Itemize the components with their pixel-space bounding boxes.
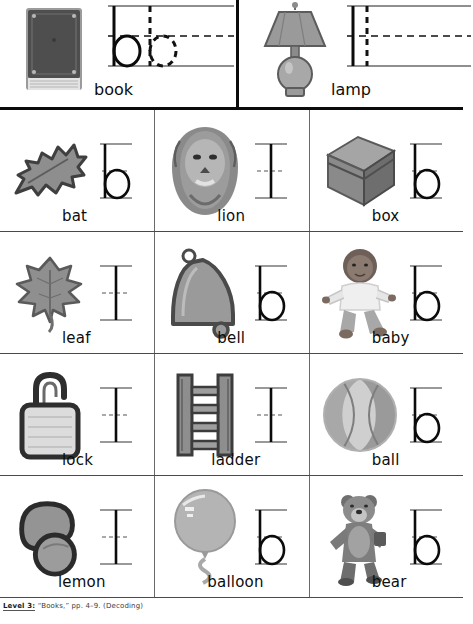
exercise-cell-box: box <box>309 110 463 231</box>
exercise-cell-leaf: leaf <box>0 232 154 353</box>
exercise-grid: bat <box>0 110 463 598</box>
word-label: bear <box>372 573 407 591</box>
exercise-cell-bell: bell <box>154 232 308 353</box>
ladder-picture <box>163 367 247 463</box>
example-cell-book: book <box>0 0 236 107</box>
word-label: ladder <box>211 451 260 469</box>
practice-lines-lock[interactable] <box>96 380 136 450</box>
practice-lines-bell[interactable] <box>251 258 291 328</box>
word-label: bell <box>217 329 245 347</box>
bear-picture <box>318 489 402 585</box>
word-label: balloon <box>207 573 263 591</box>
practice-lines-lion[interactable] <box>251 136 291 206</box>
bell-picture <box>163 245 247 341</box>
practice-lines-lamp[interactable] <box>345 0 473 78</box>
exercise-cell-ball: ball <box>309 354 463 475</box>
grid-row: lemon <box>0 476 463 598</box>
practice-lines-leaf[interactable] <box>96 258 136 328</box>
grid-row: lock <box>0 354 463 476</box>
practice-lines-balloon[interactable] <box>251 502 291 572</box>
word-label: bat <box>62 207 87 225</box>
practice-lines-ball[interactable] <box>406 380 446 450</box>
book-picture <box>10 0 102 100</box>
baby-picture <box>318 245 402 341</box>
footer-caption: Level 3: “Books,” pp. 4–9. (Decoding) <box>3 602 463 610</box>
ball-picture <box>318 367 402 463</box>
leaf-picture <box>8 245 92 341</box>
lock-picture <box>8 367 92 463</box>
balloon-picture <box>163 489 247 585</box>
example-row: book <box>0 0 463 110</box>
practice-lines-baby[interactable] <box>406 258 446 328</box>
example-word-label: lamp <box>331 80 371 99</box>
exercise-cell-bat: bat <box>0 110 154 231</box>
word-label: box <box>372 207 400 225</box>
exercise-cell-lock: lock <box>0 354 154 475</box>
example-word-label: book <box>94 80 133 99</box>
grid-row: leaf <box>0 232 463 354</box>
word-label: ball <box>372 451 400 469</box>
exercise-cell-ladder: ladder <box>154 354 308 475</box>
box-picture <box>318 123 402 219</box>
bat-picture <box>8 123 92 219</box>
lion-picture <box>163 123 247 219</box>
practice-lines-ladder[interactable] <box>251 380 291 450</box>
word-label: lock <box>62 451 93 469</box>
lemon-picture <box>8 489 92 585</box>
word-label: lion <box>217 207 245 225</box>
caption-level: Level 3: <box>3 602 35 611</box>
exercise-cell-lion: lion <box>154 110 308 231</box>
practice-lines-book[interactable] <box>106 0 236 78</box>
word-label: lemon <box>58 573 106 591</box>
grid-row: bat <box>0 110 463 232</box>
lamp-picture <box>249 0 341 100</box>
practice-lines-box[interactable] <box>406 136 446 206</box>
caption-reference: “Books,” pp. 4–9. (Decoding) <box>38 602 144 610</box>
exercise-cell-balloon: balloon <box>154 476 308 597</box>
example-cell-lamp: lamp <box>236 0 473 107</box>
word-label: leaf <box>62 329 91 347</box>
practice-lines-lemon[interactable] <box>96 502 136 572</box>
exercise-cell-baby: baby <box>309 232 463 353</box>
practice-lines-bear[interactable] <box>406 502 446 572</box>
exercise-cell-lemon: lemon <box>0 476 154 597</box>
practice-lines-bat[interactable] <box>96 136 136 206</box>
exercise-cell-bear: bear <box>309 476 463 597</box>
word-label: baby <box>372 329 410 347</box>
